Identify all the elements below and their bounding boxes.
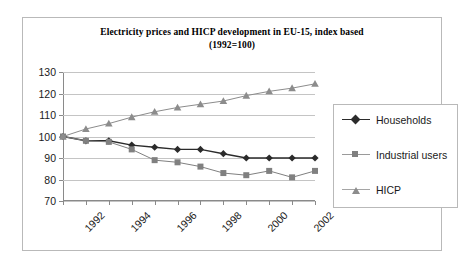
x-tick-1994 [109,201,110,205]
y-axis-label-70: 70 [44,195,56,207]
diamond-marker [311,154,318,161]
legend-label-industrial-users: Industrial users [376,149,447,161]
y-axis-label-90: 90 [44,152,56,164]
plot-area: 708090100110120130 199219941996199820002… [63,72,315,201]
x-tick-2000 [246,201,247,205]
x-axis-label-1992: 1992 [82,209,107,234]
x-axis-label-1998: 1998 [219,209,244,234]
series-households [59,133,318,162]
diamond-marker [220,150,227,157]
y-axis-label-100: 100 [38,131,56,143]
legend-label-hicp: HICP [376,184,401,196]
x-tick-1997 [178,201,179,205]
chart-title: Electricity prices and HICP development … [23,26,441,51]
square-marker [197,164,203,170]
square-marker [129,146,135,152]
x-tick-2003 [315,201,316,205]
triangle-marker-icon [342,184,370,196]
x-axis-label-2002: 2002 [311,209,336,234]
figure-frame: Electricity prices and HICP development … [22,17,442,251]
square-marker [312,168,318,174]
square-marker [220,170,226,176]
y-axis-label-130: 130 [38,66,56,78]
square-marker [175,159,181,165]
x-axis-label-1994: 1994 [128,209,153,234]
diamond-marker [197,146,204,153]
x-axis-label-2000: 2000 [265,209,290,234]
x-axis-label-1996: 1996 [173,209,198,234]
x-tick-1993 [86,201,87,205]
diamond-marker [174,146,181,153]
diamond-marker-icon [342,114,370,126]
x-tick-2002 [292,201,293,205]
square-marker-icon [342,149,370,161]
series-hicp [59,80,319,139]
x-tick-1998 [200,201,201,205]
x-tick-1999 [223,201,224,205]
triangle-marker [311,80,319,87]
series-line [63,137,315,178]
y-axis-label-80: 80 [44,174,56,186]
series-line [63,137,315,159]
square-marker [106,139,112,145]
diamond-marker [288,154,295,161]
series-layer [63,72,315,201]
y-axis-label-120: 120 [38,88,56,100]
diamond-marker [151,144,158,151]
square-marker [243,172,249,178]
legend-item-households[interactable]: Households [342,113,453,127]
legend-label-households: Households [376,114,431,126]
gridline-70 [63,201,315,202]
legend-item-hicp[interactable]: HICP [342,183,453,197]
diamond-marker [243,154,250,161]
x-tick-1996 [155,201,156,205]
x-tick-1992 [63,201,64,205]
square-marker [266,168,272,174]
x-tick-1995 [132,201,133,205]
x-tick-2001 [269,201,270,205]
chart-title-line-1: Electricity prices and HICP development … [100,27,363,37]
y-axis-label-110: 110 [39,109,56,121]
square-marker [289,174,295,180]
diamond-marker [266,154,273,161]
series-line [63,84,315,137]
square-marker [83,138,89,144]
chart-legend: Households Industrial users HICP [333,104,458,208]
square-marker [152,157,158,163]
chart-title-line-2: (1992=100) [23,39,441,52]
legend-item-industrial-users[interactable]: Industrial users [342,148,453,162]
